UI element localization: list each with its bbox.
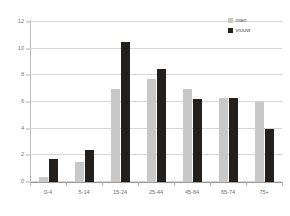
y-tick-label: 12 bbox=[2, 19, 24, 25]
legend-item-man[interactable]: man bbox=[228, 16, 280, 25]
x-tick-mark bbox=[246, 182, 247, 186]
legend-swatch-icon bbox=[228, 18, 233, 23]
x-tick-mark bbox=[282, 182, 283, 186]
bar-chart: 024681012 0-45-1415-2425-4445-6465-7475+… bbox=[0, 0, 290, 216]
legend: manvrouw bbox=[228, 16, 280, 36]
bar-vrouw-25-44 bbox=[157, 69, 166, 182]
x-tick-mark bbox=[174, 182, 175, 186]
x-tick-label: 75+ bbox=[259, 190, 268, 196]
legend-item-vrouw[interactable]: vrouw bbox=[228, 26, 280, 35]
y-tick-label: 2 bbox=[2, 152, 24, 158]
x-tick-label: 5-14 bbox=[79, 190, 90, 196]
bar-vrouw-0-4 bbox=[49, 159, 58, 182]
legend-label: vrouw bbox=[236, 28, 251, 34]
bar-man-25-44 bbox=[147, 79, 156, 182]
x-tick-label: 0-4 bbox=[44, 190, 52, 196]
bar-man-65-74 bbox=[219, 98, 228, 182]
legend-label: man bbox=[236, 18, 247, 24]
y-tick-label: 0 bbox=[2, 179, 24, 185]
bar-man-45-64 bbox=[183, 89, 192, 182]
y-tick-label: 8 bbox=[2, 72, 24, 78]
bar-man-0-4 bbox=[39, 177, 48, 182]
x-tick-label: 65-74 bbox=[221, 190, 235, 196]
x-tick-label: 45-64 bbox=[185, 190, 199, 196]
y-tick-label: 10 bbox=[2, 46, 24, 52]
bar-man-75+ bbox=[255, 102, 264, 182]
bar-vrouw-5-14 bbox=[85, 150, 94, 182]
gridline bbox=[30, 48, 282, 49]
bar-man-5-14 bbox=[75, 162, 84, 182]
x-tick-mark bbox=[30, 182, 31, 186]
y-tick-label: 4 bbox=[2, 126, 24, 132]
x-tick-mark bbox=[66, 182, 67, 186]
plot-area bbox=[30, 22, 282, 182]
bar-man-15-24 bbox=[111, 89, 120, 182]
x-tick-label: 25-44 bbox=[149, 190, 163, 196]
legend-swatch-icon bbox=[228, 28, 233, 33]
x-tick-label: 15-24 bbox=[113, 190, 127, 196]
bar-vrouw-65-74 bbox=[229, 98, 238, 182]
bar-vrouw-45-64 bbox=[193, 99, 202, 182]
x-axis-labels: 0-45-1415-2425-4445-6465-7475+ bbox=[30, 186, 282, 210]
x-tick-mark bbox=[210, 182, 211, 186]
bar-vrouw-15-24 bbox=[121, 42, 130, 182]
bar-vrouw-75+ bbox=[265, 129, 274, 182]
x-tick-mark bbox=[138, 182, 139, 186]
y-tick-label: 6 bbox=[2, 99, 24, 105]
x-tick-mark bbox=[102, 182, 103, 186]
